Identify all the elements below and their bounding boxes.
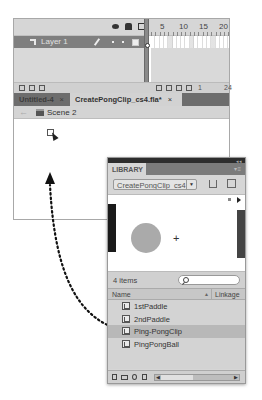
layers-area [14,48,144,82]
play-icon[interactable] [237,197,241,203]
mouse-cursor-icon [49,131,58,141]
preview-ball [131,223,161,253]
library-item[interactable]: PingPongBall [108,338,245,351]
preview-right-paddle [237,210,245,258]
empty-keyframe-icon[interactable] [145,43,150,48]
movieclip-symbol-icon [122,340,130,348]
movieclip-symbol-icon [122,327,130,335]
eye-icon[interactable] [112,24,119,29]
ruler-mark: 10 [179,22,188,31]
library-item[interactable]: 2ndPaddle [108,313,245,326]
delete-layer-icon[interactable] [39,85,45,91]
new-folder-icon[interactable] [121,375,128,380]
tab-untitled-4[interactable]: Untitled-4× [14,93,69,106]
stop-icon[interactable] [228,198,231,201]
frames-area [151,48,229,82]
center-frame-icon[interactable] [156,85,162,91]
lock-icon[interactable] [125,23,132,30]
library-column-header: Name ▲ Linkage [108,288,245,300]
pencil-icon [94,38,100,46]
column-name[interactable]: Name [112,291,131,298]
column-linkage[interactable]: Linkage [211,289,243,299]
onion-outlines-icon[interactable] [176,85,182,91]
panel-menu-icon[interactable]: ▾≡ [234,165,241,172]
onion-skin-icon[interactable] [166,85,172,91]
scroll-right-icon[interactable]: ▶ [234,374,238,380]
item-name: 2ndPaddle [134,315,170,324]
item-name: 1stPaddle [134,302,167,311]
properties-icon[interactable] [132,374,137,380]
chevron-down-icon: ▼ [186,180,196,189]
document-name: CreatePongClip_cs4 [117,181,186,190]
library-item[interactable]: Ping-PongClip [108,325,245,338]
close-icon[interactable]: × [168,95,172,104]
search-input[interactable] [178,275,240,285]
new-folder-icon[interactable] [29,85,35,91]
registration-point-icon: + [173,232,179,244]
horizontal-scrollbar[interactable]: ◀ ▶ [154,374,240,381]
library-panel: ◂◂ LIBRARY ▾≡ CreatePongClip_cs4 ▼ + 4 i… [107,157,246,384]
library-tab-row: LIBRARY ▾≡ [108,163,245,175]
movieclip-symbol-icon [122,315,130,323]
visibility-dot[interactable] [112,41,114,43]
library-footer: ◀ ▶ [108,370,245,383]
library-item-list: 1stPaddle 2ndPaddle Ping-PongClip PingPo… [108,300,245,369]
tab-label: CreatePongClip_cs4.fla* [75,95,162,104]
library-tab[interactable]: LIBRARY [108,163,146,175]
lock-dot[interactable] [122,41,124,43]
tab-createpongclip[interactable]: CreatePongClip_cs4.fla*× [70,93,182,106]
ruler-mark: 20 [219,22,228,31]
edit-bar: ← Scene 2 [14,106,229,119]
item-name: PingPongBall [134,340,179,349]
timeline-footer: 1 24 [14,82,229,93]
ruler-mark: 5 [160,22,164,31]
new-library-panel-icon[interactable] [227,179,236,188]
new-symbol-icon[interactable] [112,374,117,380]
item-count: 4 items [113,276,137,285]
delete-icon[interactable] [142,374,147,380]
new-layer-icon[interactable] [19,85,25,91]
library-count-row: 4 items [108,272,245,288]
pin-library-icon[interactable] [209,180,217,188]
movieclip-symbol-icon [122,302,130,310]
scrollbar-thumb[interactable] [161,375,193,380]
outline-color-icon[interactable] [132,39,139,46]
document-select[interactable]: CreatePongClip_cs4 ▼ [113,179,197,190]
item-name: Ping-PongClip [134,327,182,336]
layer-icon [30,39,36,45]
timeline-header: 5 10 15 20 [14,19,229,36]
tab-label: Untitled-4 [19,95,54,104]
current-frame: 1 [198,84,202,91]
frames-row[interactable] [151,36,229,48]
frame-rate: 24 [224,84,232,91]
scroll-left-icon[interactable]: ◀ [156,374,160,380]
preview-left-paddle [108,204,116,252]
close-icon[interactable]: × [60,95,64,104]
library-item[interactable]: 1stPaddle [108,300,245,313]
frame-ruler[interactable]: 5 10 15 20 [151,19,229,36]
ruler-mark: 15 [199,22,208,31]
sort-ascending-icon[interactable]: ▲ [204,291,209,297]
search-icon [183,277,189,283]
back-arrow-icon[interactable]: ← [19,107,28,117]
scene-icon [36,109,44,116]
edit-multiple-icon[interactable] [186,85,192,91]
document-tab-bar: Untitled-4× CreatePongClip_cs4.fla*× [14,93,229,106]
playhead[interactable] [144,19,149,82]
scene-label[interactable]: Scene 2 [47,108,76,117]
layer-name[interactable]: Layer 1 [41,37,68,46]
library-preview: + [108,194,245,272]
layer-row[interactable]: Layer 1 [14,36,144,48]
library-document-row: CreatePongClip_cs4 ▼ [108,175,245,194]
